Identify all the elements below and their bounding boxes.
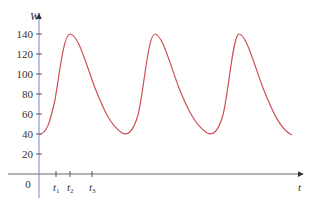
y-tick-140: 140 <box>17 28 34 40</box>
w-curve <box>40 34 292 135</box>
y-tick-40: 40 <box>22 128 34 140</box>
x-tick-t2: t2 <box>67 181 74 195</box>
y-tick-60: 60 <box>22 108 34 120</box>
origin-label: 0 <box>25 178 31 190</box>
y-tick-80: 80 <box>22 88 34 100</box>
y-tick-120: 120 <box>17 48 34 60</box>
chart-svg: 140 120 100 80 60 40 20 0 W t t1 t2 t3 <box>0 0 309 204</box>
x-tick-t1: t1 <box>53 181 60 195</box>
y-tick-20: 20 <box>22 148 34 160</box>
y-axis-label: W <box>30 10 40 22</box>
y-tick-100: 100 <box>17 68 34 80</box>
chart: 140 120 100 80 60 40 20 0 W t t1 t2 t3 <box>0 0 309 204</box>
x-axis-label: t <box>298 181 302 193</box>
x-tick-t3: t3 <box>89 181 96 195</box>
